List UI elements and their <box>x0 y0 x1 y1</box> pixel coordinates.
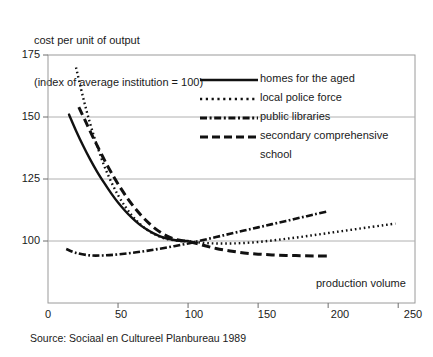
series-line-0 <box>69 115 188 241</box>
series-line-2 <box>66 211 328 255</box>
legend-label-2: public libraries <box>260 110 330 123</box>
legend-item-homes-for-the-aged: homes for the aged <box>198 72 410 87</box>
legend-item-secondary-comprehensive-school: secondary comprehensive <box>198 129 410 144</box>
chart-figure: cost per unit of output (index of averag… <box>0 0 433 357</box>
plot-area <box>0 0 433 357</box>
legend-label-1: local police force <box>260 91 342 104</box>
legend-key-dotted-icon <box>198 91 260 106</box>
legend-label-3: secondary comprehensive <box>260 129 388 142</box>
chart-legend: homes for the aged local police force pu… <box>198 72 410 161</box>
source-note: Source: Sociaal en Cultureel Planbureau … <box>30 332 246 344</box>
legend-key-dashed-icon <box>198 129 260 144</box>
legend-item-public-libraries: public libraries <box>198 110 410 125</box>
legend-label-0: homes for the aged <box>260 72 355 85</box>
legend-item-local-police-force: local police force <box>198 91 410 106</box>
legend-key-solid-icon <box>198 72 260 87</box>
legend-label-3-line2: school <box>260 148 410 161</box>
legend-key-dashdot-icon <box>198 110 260 125</box>
